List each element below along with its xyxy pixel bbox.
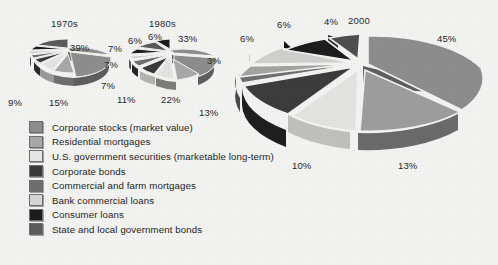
pie-1970s-label-9: 9% xyxy=(8,97,22,108)
legend-item-bank-commercial-loans: Bank commercial loans xyxy=(29,193,274,208)
pie-2000-label-10: 10% xyxy=(292,160,311,171)
legend-swatch-consumer-loans xyxy=(29,209,43,221)
pie-2000-slices xyxy=(238,34,483,131)
chart-canvas: 1970s 39% 15% 9% xyxy=(0,0,498,265)
pie-1980s-label-7d: 6% xyxy=(128,35,142,46)
legend-item-corporate-stocks: Corporate stocks (market value) xyxy=(29,120,274,135)
pie-1970s-label-15: 15% xyxy=(49,97,68,108)
pie-1970s-title: 1970s xyxy=(51,18,78,29)
legend-swatch-bank-commercial-loans xyxy=(29,194,43,206)
legend-label-consumer-loans: Consumer loans xyxy=(52,209,124,220)
legend-label-corporate-stocks: Corporate stocks (market value) xyxy=(52,122,193,133)
pie-1970s-label-39: 39% xyxy=(70,42,89,53)
legend-swatch-us-government-securities xyxy=(29,150,43,162)
pie-2000-label-13a: 13% xyxy=(199,107,218,118)
legend-label-us-government-securities: U.S. government securities (marketable l… xyxy=(52,151,274,162)
legend-label-commercial-farm-mortgages: Commercial and farm mortgages xyxy=(52,180,196,191)
pie-1980s-label-11: 11% xyxy=(117,94,136,105)
legend-swatch-commercial-farm-mortgages xyxy=(29,180,43,192)
pie-2000-label-13b: 13% xyxy=(398,160,417,171)
legend-swatch-corporate-stocks xyxy=(29,121,43,133)
legend-item-consumer-loans: Consumer loans xyxy=(29,208,274,223)
legend-item-us-government-securities: U.S. government securities (marketable l… xyxy=(29,149,274,164)
pie-1980s-label-33: 33% xyxy=(178,33,197,44)
legend-item-state-local-government-bonds: State and local government bonds xyxy=(29,222,274,237)
legend-label-corporate-bonds: Corporate bonds xyxy=(52,166,126,177)
pie-1980s-title: 1980s xyxy=(149,18,176,29)
legend-swatch-residential-mortgages xyxy=(29,136,43,148)
legend-swatch-corporate-bonds xyxy=(29,165,43,177)
chart-legend: Corporate stocks (market value) Resident… xyxy=(29,120,274,237)
legend-item-commercial-farm-mortgages: Commercial and farm mortgages xyxy=(29,178,274,193)
legend-label-bank-commercial-loans: Bank commercial loans xyxy=(52,195,154,206)
pie-1980s-label-7b: 7% xyxy=(104,59,118,70)
pie-1980s-label-22: 22% xyxy=(161,94,180,105)
legend-item-corporate-bonds: Corporate bonds xyxy=(29,164,274,179)
pie-2000-label-45: 45% xyxy=(437,33,456,44)
pie-1980s-label-7c: 7% xyxy=(108,43,122,54)
pie-2000-label-6b: 6% xyxy=(277,19,291,30)
pie-1980s-label-7a: 7% xyxy=(101,80,115,91)
legend-label-residential-mortgages: Residential mortgages xyxy=(52,136,151,147)
pie-2000-label-4: 4% xyxy=(324,16,338,27)
pie-2000-title: 2000 xyxy=(348,15,370,26)
pie-1980s-label-6: 6% xyxy=(148,31,162,42)
pie-2000-label-6a: 6% xyxy=(240,33,254,44)
pie-2000-label-3: 3% xyxy=(207,55,221,66)
legend-swatch-state-local-government-bonds xyxy=(29,223,43,235)
legend-item-residential-mortgages: Residential mortgages xyxy=(29,135,274,150)
legend-label-state-local-government-bonds: State and local government bonds xyxy=(52,224,202,235)
